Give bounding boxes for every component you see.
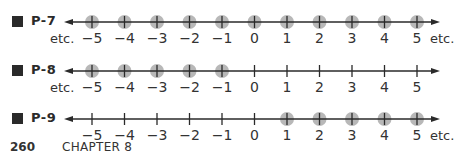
number-line-problem-p-9: P-9−5−4−3−2−1012345etc. [0,0,461,48]
tick-label: 1 [283,127,292,143]
tick-label: 2 [315,127,324,143]
tick-label: 3 [348,127,357,143]
tick-label: 4 [380,127,389,143]
chapter-label: CHAPTER 8 [62,140,132,154]
tick-label: −1 [212,127,233,143]
etc-right-label: etc. [430,128,454,143]
tick-label: 5 [413,127,422,143]
tick-label: −3 [147,127,168,143]
tick-label: 0 [250,127,259,143]
tick-label: −2 [179,127,200,143]
arrow-left-icon [64,116,73,122]
arrow-right-icon [431,116,440,122]
page-number: 260 [10,140,35,154]
